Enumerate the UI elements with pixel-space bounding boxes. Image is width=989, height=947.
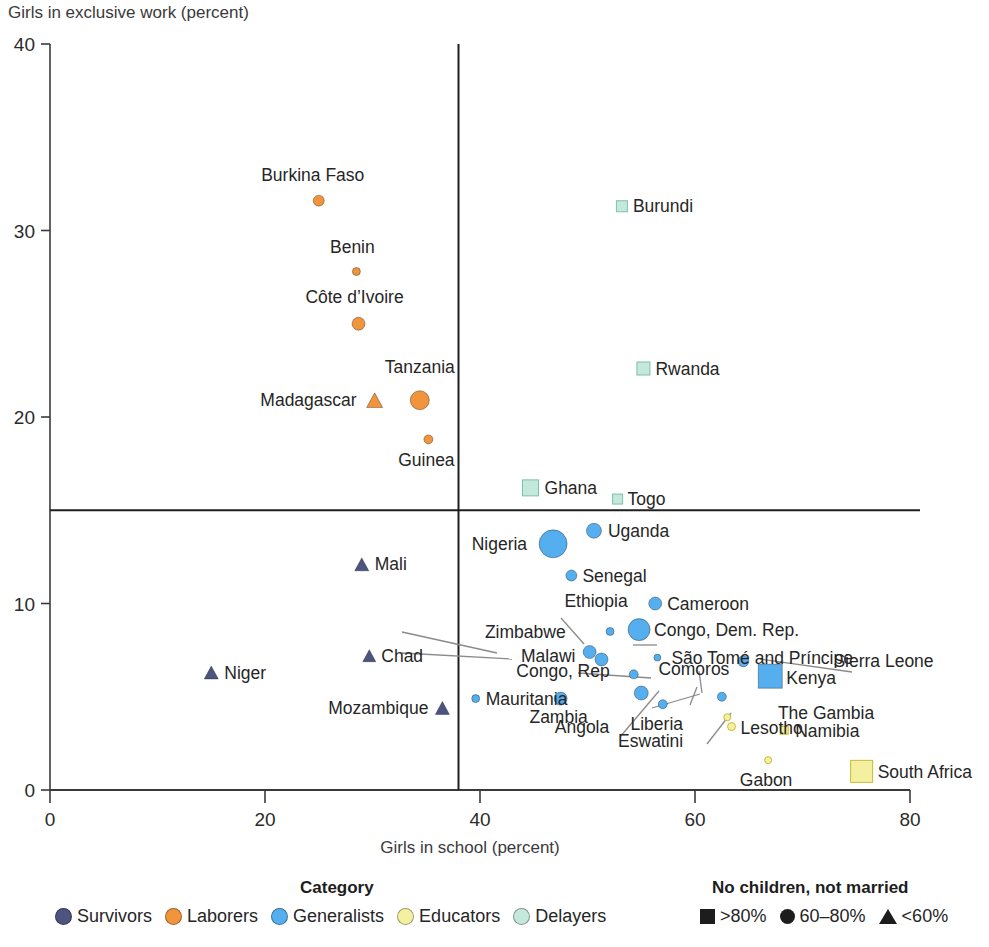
data-point-marker — [566, 570, 577, 581]
data-point-label: Madagascar — [260, 390, 356, 410]
data-point-marker — [523, 480, 539, 496]
data-point-marker — [637, 362, 650, 375]
legend-label-laborers: Laborers — [187, 906, 258, 927]
data-point-marker — [583, 645, 596, 658]
data-point-marker — [634, 686, 648, 700]
legend-item-generalists[interactable]: Generalists — [271, 906, 384, 927]
data-point-label: Namibia — [795, 721, 859, 741]
square-marker-icon — [700, 909, 715, 924]
data-point-label: Congo, Dem. Rep. — [654, 620, 799, 640]
data-point-marker — [586, 523, 601, 538]
y-axis-tick-label: 10 — [14, 594, 35, 615]
legend-label-survivors: Survivors — [77, 906, 152, 927]
data-point-marker — [204, 666, 218, 679]
data-point-label: Eswatini — [618, 731, 683, 751]
data-point-marker — [472, 695, 480, 703]
data-point-label: Benin — [330, 237, 375, 257]
data-point-marker — [606, 627, 614, 635]
legend-label-delayers: Delayers — [535, 906, 606, 927]
data-point-label: Burkina Faso — [261, 165, 364, 185]
data-point-label: Lesotho — [741, 718, 803, 738]
data-point-label: Côte d’Ivoire — [305, 287, 403, 307]
data-point-marker — [367, 393, 383, 408]
data-point-marker — [539, 530, 567, 558]
legend-shape-circle[interactable]: 60–80% — [780, 906, 866, 927]
scatter-chart: Girls in exclusive work (percent) Girls … — [0, 0, 989, 947]
y-axis-tick-label: 0 — [24, 780, 35, 801]
x-axis-tick-label: 20 — [254, 809, 275, 830]
legend-item-educators[interactable]: Educators — [397, 906, 500, 927]
data-point-marker — [613, 494, 623, 504]
legend-shape-triangle[interactable]: <60% — [879, 906, 949, 927]
legend-swatch-educators-icon — [397, 908, 414, 925]
data-point-marker — [765, 757, 772, 764]
y-axis-tick-label: 40 — [14, 34, 35, 55]
data-point-marker — [629, 670, 638, 679]
data-point-marker — [424, 435, 433, 444]
data-point-label: Ethiopia — [564, 591, 628, 611]
plot-area: 010203040020406080 Burkina FasoBeninCôte… — [0, 0, 989, 947]
data-point-label: Gabon — [740, 770, 793, 790]
data-point-label: Tanzania — [385, 357, 455, 377]
data-point-label: Senegal — [582, 566, 646, 586]
data-point-marker — [851, 760, 873, 782]
data-point-marker — [352, 268, 360, 276]
legend-item-laborers[interactable]: Laborers — [165, 906, 258, 927]
data-point-label: Sierra Leone — [833, 651, 933, 671]
data-point-label: Burundi — [633, 196, 693, 216]
data-point-label: South Africa — [878, 762, 973, 782]
data-point-label: Uganda — [608, 521, 670, 541]
data-point-marker — [658, 700, 667, 709]
data-point-marker — [352, 317, 365, 330]
point-labels: Burkina FasoBeninCôte d’IvoireTanzaniaMa… — [224, 165, 972, 791]
legend-item-delayers[interactable]: Delayers — [513, 906, 606, 927]
data-point-marker — [616, 201, 627, 212]
data-point-marker — [355, 558, 369, 571]
chart-legend: Category No children, not married Surviv… — [0, 878, 989, 947]
legend-shape-heading: No children, not married — [712, 878, 908, 898]
data-point-marker — [435, 702, 449, 715]
data-point-label: Rwanda — [655, 359, 719, 379]
x-axis-tick-label: 60 — [684, 809, 705, 830]
data-point-label: Togo — [628, 489, 666, 509]
legend-item-survivors[interactable]: Survivors — [55, 906, 152, 927]
legend-category-row: SurvivorsLaborersGeneralistsEducatorsDel… — [55, 906, 619, 927]
legend-shape-row: >80%60–80%<60% — [700, 906, 961, 927]
legend-swatch-delayers-icon — [513, 908, 530, 925]
legend-label-educators: Educators — [419, 906, 500, 927]
data-point-label: Kenya — [786, 668, 836, 688]
legend-label-generalists: Generalists — [293, 906, 384, 927]
legend-category-heading: Category — [300, 878, 374, 898]
data-point-label: Angola — [555, 717, 610, 737]
data-point-label: Ghana — [545, 478, 598, 498]
legend-shape-label-circle: 60–80% — [800, 906, 866, 927]
data-point-marker — [628, 619, 650, 641]
data-point-label: Cameroon — [667, 594, 749, 614]
legend-shape-square[interactable]: >80% — [700, 906, 767, 927]
data-point-marker — [758, 664, 782, 688]
data-point-label: Comoros — [658, 659, 729, 679]
data-point-label: Zimbabwe — [485, 622, 566, 642]
data-point-label: Mozambique — [328, 698, 428, 718]
triangle-marker-icon — [879, 909, 897, 924]
data-point-label: Chad — [381, 646, 423, 666]
data-point-marker — [724, 714, 731, 721]
data-point-label: Guinea — [398, 450, 455, 470]
data-point-marker — [717, 692, 726, 701]
x-axis-tick-label: 80 — [899, 809, 920, 830]
data-point-marker — [728, 723, 736, 731]
data-point-label: Nigeria — [472, 534, 528, 554]
data-point-marker — [363, 650, 376, 662]
data-point-marker — [313, 195, 324, 206]
data-point-marker — [649, 597, 662, 610]
x-axis-tick-label: 40 — [469, 809, 490, 830]
legend-shape-label-triangle: <60% — [902, 906, 949, 927]
y-axis-tick-label: 30 — [14, 221, 35, 242]
data-point-marker — [410, 391, 429, 410]
legend-shape-label-square: >80% — [720, 906, 767, 927]
data-point-label: Mauritania — [486, 689, 568, 709]
legend-swatch-laborers-icon — [165, 908, 182, 925]
data-point-label: Niger — [224, 663, 266, 683]
x-axis-tick-label: 0 — [45, 809, 56, 830]
data-point-label: Mali — [375, 554, 407, 574]
